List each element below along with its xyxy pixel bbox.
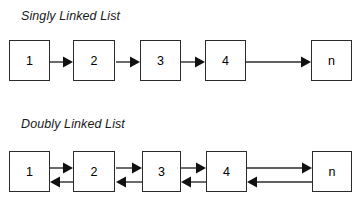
doubly-node-2: 2 [73, 151, 115, 192]
singly-node-2: 2 [73, 40, 115, 81]
doubly-node-n: n [312, 151, 352, 192]
singly-node-n: n [311, 40, 352, 81]
linked-list-diagram: Singly Linked List 1 2 3 4 n Doubly Link… [0, 0, 357, 209]
doubly-node-1: 1 [9, 151, 50, 192]
doubly-node-4: 4 [206, 151, 247, 192]
singly-node-1: 1 [9, 40, 50, 81]
doubly-node-3: 3 [142, 151, 181, 192]
singly-node-4: 4 [205, 40, 246, 81]
singly-node-3: 3 [140, 40, 181, 81]
